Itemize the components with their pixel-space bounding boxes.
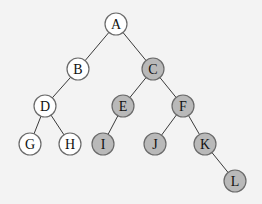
node-label: I <box>101 137 106 152</box>
binary-tree-diagram: ABCDEFGHIJKL <box>0 0 262 204</box>
node-label: A <box>111 17 122 32</box>
node-label: H <box>65 137 75 152</box>
node-label: G <box>25 137 35 152</box>
node-label: E <box>119 99 128 114</box>
tree-node-l: L <box>224 170 246 192</box>
tree-nodes: ABCDEFGHIJKL <box>19 13 246 192</box>
node-label: F <box>179 99 187 114</box>
node-label: D <box>40 99 50 114</box>
tree-node-a: A <box>105 13 127 35</box>
tree-node-j: J <box>144 133 166 155</box>
node-label: B <box>73 62 82 77</box>
tree-node-g: G <box>19 133 41 155</box>
tree-node-d: D <box>34 95 56 117</box>
tree-node-e: E <box>112 95 134 117</box>
tree-node-k: K <box>194 133 216 155</box>
tree-node-c: C <box>142 58 164 80</box>
tree-node-b: B <box>67 58 89 80</box>
tree-node-f: F <box>172 95 194 117</box>
node-label: L <box>231 174 240 189</box>
node-label: K <box>200 137 210 152</box>
tree-node-h: H <box>59 133 81 155</box>
tree-node-i: I <box>92 133 114 155</box>
node-label: C <box>148 62 157 77</box>
node-label: J <box>152 137 158 152</box>
